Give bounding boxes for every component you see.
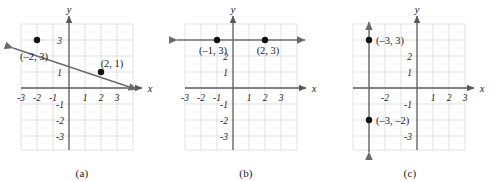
data-point (34, 37, 40, 43)
panel-caption: (c) (328, 167, 492, 179)
point-label: (2, 1) (101, 58, 124, 70)
y-tick-label: -2 (56, 116, 64, 126)
x-tick-label: -3 (17, 93, 25, 103)
panel-b-plot: -3 -2 -1 1 2 3 2 1 -1 -2 -3 x y (–1, 3) … (164, 0, 328, 160)
x-tick-label: -2 (33, 93, 41, 103)
point-label: (–1, 3) (199, 45, 227, 57)
panel-c: -2 1 2 3 2 1 -1 -3 x y (–3, 3) (–3, –2) … (328, 0, 492, 181)
graph-figure: -3 -2 -1 1 2 3 3 1 -1 -2 -3 x y (–2, 3) … (0, 0, 493, 181)
point-label: (2, 3) (257, 45, 280, 57)
x-tick-label: 2 (447, 93, 452, 103)
panel-c-plot: -2 1 2 3 2 1 -1 -3 x y (–3, 3) (–3, –2) (328, 0, 493, 160)
y-tick-label: -1 (56, 100, 64, 110)
x-axis-label: x (479, 83, 485, 94)
y-axis-label: y (66, 4, 72, 15)
x-tick-label: -2 (197, 93, 205, 103)
y-tick-label: 1 (57, 68, 62, 78)
point-label: (–2, 3) (20, 51, 48, 63)
data-point (214, 37, 220, 43)
y-axis-label: y (230, 4, 236, 15)
x-tick-label: 3 (278, 93, 284, 103)
x-axis-label: x (147, 83, 153, 94)
x-tick-label: -3 (181, 93, 189, 103)
y-tick-label: 2 (407, 52, 412, 62)
y-tick-label: -3 (220, 132, 228, 142)
x-tick-label: 2 (263, 93, 268, 103)
y-tick-label: -1 (220, 100, 228, 110)
y-tick-label: -3 (404, 132, 412, 142)
data-point (366, 117, 372, 123)
y-tick-label: 1 (407, 68, 412, 78)
point-label: (–3, –2) (376, 115, 410, 127)
panel-a: -3 -2 -1 1 2 3 3 1 -1 -2 -3 x y (–2, 3) … (0, 0, 164, 181)
panel-a-plot: -3 -2 -1 1 2 3 3 1 -1 -2 -3 x y (–2, 3) … (0, 0, 164, 160)
point-label: (–3, 3) (376, 35, 404, 47)
y-tick-label: 3 (56, 36, 62, 46)
data-point (98, 69, 104, 75)
data-point (366, 37, 372, 43)
y-axis-label: y (414, 4, 420, 15)
x-tick-label: 3 (462, 93, 468, 103)
x-tick-label: 2 (99, 93, 104, 103)
x-tick-label: 3 (114, 93, 120, 103)
x-tick-label: 1 (431, 93, 436, 103)
grid-lines (185, 24, 297, 150)
y-tick-label: -1 (404, 100, 412, 110)
y-tick-label: -2 (220, 116, 228, 126)
data-point (262, 37, 268, 43)
y-tick-label: 1 (223, 68, 228, 78)
panel-caption: (b) (164, 167, 328, 179)
x-tick-label: 1 (83, 93, 88, 103)
panel-caption: (a) (0, 167, 164, 179)
x-tick-label: 1 (247, 93, 252, 103)
x-tick-label: -2 (381, 93, 389, 103)
x-axis-label: x (311, 83, 317, 94)
panel-b: -3 -2 -1 1 2 3 2 1 -1 -2 -3 x y (–1, 3) … (164, 0, 328, 181)
y-tick-label: -3 (56, 132, 64, 142)
